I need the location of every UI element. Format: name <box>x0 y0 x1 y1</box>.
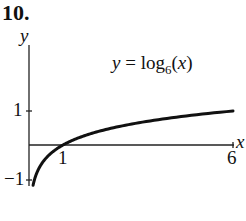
y-axis-label: y <box>20 25 28 47</box>
y-tick-label-1: 1 <box>13 99 23 121</box>
x-axis-label: x <box>236 131 244 153</box>
function-label: y = log6(x) <box>112 52 193 78</box>
x-tick-label-1: 1 <box>58 147 68 169</box>
x-tick-label-6: 6 <box>227 147 237 169</box>
log-base: 6 <box>165 62 172 77</box>
y-tick-label-neg1: −1 <box>4 168 24 190</box>
log-graph <box>0 0 246 221</box>
